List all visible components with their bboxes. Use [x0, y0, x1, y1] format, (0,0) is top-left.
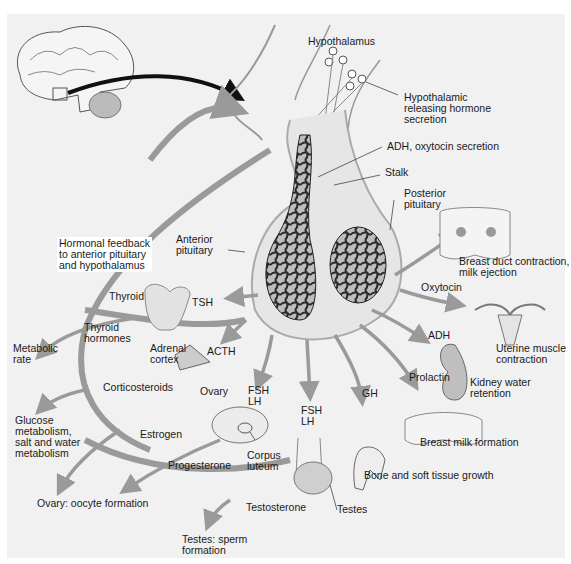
label-thyroid-hormones: Thyroid hormones — [84, 322, 131, 344]
label-breast-milk-formation: Breast milk formation — [420, 437, 519, 448]
label-progesterone: Progesterone — [168, 460, 231, 471]
label-adh-oxytocin-secretion: ADH, oxytocin secretion — [387, 141, 499, 152]
label-fsh-lh-testes: FSH LH — [301, 405, 322, 427]
label-fsh-lh-ovary: FSH LH — [248, 385, 269, 407]
label-estrogen: Estrogen — [140, 429, 182, 440]
label-ovary-oocyte: Ovary: oocyte formation — [37, 498, 148, 509]
label-anterior-pituitary: Anterior pituitary — [176, 234, 213, 256]
label-glucose-metabolism: Glucose metabolism, salt and water metab… — [15, 415, 80, 459]
label-stalk: Stalk — [385, 167, 408, 178]
label-thyroid: Thyroid — [109, 291, 144, 302]
label-hormonal-feedback: Hormonal feedback to anterior pituitary … — [57, 237, 152, 272]
uterus-icon — [475, 305, 545, 345]
label-ovary: Ovary — [200, 386, 228, 397]
label-testes-sperm: Testes: sperm formation — [182, 534, 247, 556]
label-gh: GH — [362, 388, 378, 399]
breast-duct-icon — [440, 208, 510, 259]
label-acth: ACTH — [207, 346, 236, 357]
label-uterine: Uterine muscle contraction — [496, 343, 566, 365]
label-testosterone: Testosterone — [246, 502, 306, 513]
label-kidney-water: Kidney water retention — [470, 377, 531, 399]
label-metabolic-rate: Metabolic rate — [13, 343, 58, 365]
label-posterior-pituitary: Posterior pituitary — [404, 188, 446, 210]
label-adrenal-cortex: Adrenal cortex — [150, 343, 186, 365]
label-adh: ADH — [428, 330, 450, 341]
label-corpus-luteum: Corpus luteum — [247, 450, 281, 472]
label-hypothalamic-releasing: Hypothalamic releasing hormone secretion — [404, 92, 491, 125]
label-tsh: TSH — [192, 297, 213, 308]
label-oxytocin: Oxytocin — [421, 282, 462, 293]
label-hypothalamus: Hypothalamus — [308, 36, 375, 47]
brain-icon — [17, 26, 133, 118]
label-breast-duct: Breast duct contraction, milk ejection — [459, 256, 569, 278]
label-corticosteroids: Corticosteroids — [103, 382, 173, 393]
label-bone-growth: Bone and soft tissue growth — [364, 470, 494, 481]
label-prolactin: Prolactin — [409, 372, 450, 383]
label-testes: Testes — [337, 504, 367, 515]
testes-icon — [294, 438, 332, 494]
